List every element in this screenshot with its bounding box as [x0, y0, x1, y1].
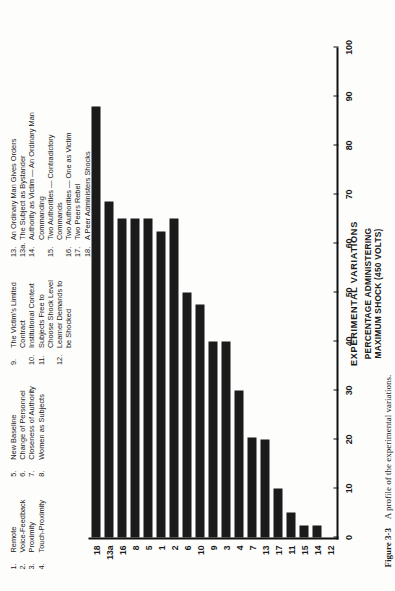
legend-item-label: Change of Personnel: [17, 390, 26, 459]
legend-item-number: 4.: [36, 555, 45, 569]
bar: [130, 219, 139, 538]
legend-item-number: 3.: [26, 555, 35, 569]
legend-item: 2. Voice-Feedback: [17, 489, 26, 569]
legend-item-label: The Victim's Limited Contract: [8, 282, 26, 348]
legend-item-label: Institutional Context: [26, 283, 35, 348]
value-tick: [333, 487, 338, 488]
category-tick-labels: 1813a1685126109347131711151412: [88, 543, 336, 573]
bar: [169, 219, 178, 538]
bar-row: [182, 47, 191, 537]
value-tick: [333, 193, 338, 194]
bar: [286, 513, 295, 538]
category-label-1: 1: [156, 543, 165, 573]
legend-item-label: Two Authorities — One as Victim: [63, 132, 72, 239]
legend-item-number: 7.: [26, 462, 35, 476]
category-label-17: 17: [273, 543, 282, 573]
legend-item-label: Remote: [8, 526, 17, 552]
bar: [117, 219, 126, 538]
category-label-11: 11: [286, 543, 295, 573]
value-tick: [333, 95, 338, 96]
legend-item: 5. New Baseline: [8, 378, 17, 477]
bar: [182, 292, 191, 537]
legend-item: 13a. The Subject as Bystander: [17, 99, 26, 257]
bar-row: [130, 47, 139, 537]
value-tick: [333, 389, 338, 390]
bar-row: [195, 47, 204, 537]
bar-row: [247, 47, 256, 537]
legend-item: 11. Subjects Free to Choose Shock Level: [36, 270, 54, 365]
legend-item: 3. Proximity: [26, 489, 35, 569]
category-label-2: 2: [169, 543, 178, 573]
legend-item-number: 6.: [17, 462, 26, 476]
legend-item: 8. Women as Subjects: [36, 378, 45, 477]
bar: [104, 201, 113, 537]
figure-page: 1. Remote 2. Voice-Feedback 3. Proximity…: [0, 0, 395, 591]
bar: [156, 231, 165, 537]
legend-item-number: 13a.: [17, 243, 26, 257]
legend-item: 6. Change of Personnel: [17, 378, 26, 477]
legend-item: 10. Institutional Context: [26, 270, 35, 365]
legend-item-number: 2.: [17, 555, 26, 569]
legend-item-number: 17.: [72, 243, 81, 257]
bar-row: [156, 47, 165, 537]
bar: [299, 525, 308, 537]
bar: [247, 437, 256, 537]
legend-item-number: 13.: [8, 243, 17, 257]
bar-row: [312, 47, 321, 537]
legend-item-number: 12.: [54, 351, 72, 365]
bar-row: [104, 47, 113, 537]
legend: 1. Remote 2. Voice-Feedback 3. Proximity…: [8, 99, 91, 569]
legend-item-number: 5.: [8, 462, 17, 476]
legend-item-label: Proximity: [26, 522, 35, 552]
bar-chart-figure: 1. Remote 2. Voice-Feedback 3. Proximity…: [0, 0, 395, 591]
bar-row: [260, 47, 269, 537]
category-label-16: 16: [117, 543, 126, 573]
bar: [221, 341, 230, 537]
category-label-6: 6: [182, 543, 191, 573]
legend-item-label: New Baseline: [8, 414, 17, 459]
category-label-15: 15: [299, 543, 308, 573]
legend-item-label: Subjects Free to Choose Shock Level: [36, 280, 54, 348]
legend-item-number: 8.: [36, 462, 45, 476]
legend-item-label: Closeness of Authority: [26, 386, 35, 460]
legend-item: 15. Two Authorities — Contradictory Comm…: [45, 99, 63, 257]
legend-item: 7. Closeness of Authority: [26, 378, 35, 477]
figure-caption: Figure 3-3 A profile of the experimental…: [382, 127, 392, 567]
legend-item-number: 15.: [45, 243, 63, 257]
category-label-5: 5: [143, 543, 152, 573]
value-tick: [333, 144, 338, 145]
bar: [91, 106, 100, 537]
bar-row: [299, 47, 308, 537]
legend-item: 14. Authority as Victim — An Ordinary Ma…: [26, 99, 44, 257]
value-tick: [333, 242, 338, 243]
value-tick-marks: 0102030405060708090100: [324, 47, 340, 537]
category-label-12: 12: [325, 543, 334, 573]
legend-column-3: 9. The Victim's Limited Contract 10. Ins…: [8, 270, 91, 365]
bar-row: [117, 47, 126, 537]
legend-item: 12. Learner Demands to be Shocked: [54, 270, 72, 365]
legend-item-label: Learner Demands to be Shocked: [54, 280, 72, 347]
value-tick: [333, 340, 338, 341]
legend-item-label: Authority as Victim — An Ordinary Man Co…: [26, 99, 44, 240]
legend-item-label: Two Peers Rebel: [72, 183, 81, 239]
legend-column-2: 5. New Baseline 6. Change of Personnel 7…: [8, 378, 91, 477]
legend-item: 1. Remote: [8, 489, 17, 569]
bar-row: [286, 47, 295, 537]
bar: [273, 488, 282, 537]
legend-item-label: The Subject as Bystander: [17, 155, 26, 240]
legend-item-number: 9.: [8, 351, 26, 365]
bar-row: [91, 47, 100, 537]
category-label-3: 3: [221, 543, 230, 573]
legend-item: 16. Two Authorities — One as Victim: [63, 99, 72, 257]
value-tick: [333, 46, 338, 47]
legend-item-label: Voice-Feedback: [17, 499, 26, 552]
value-tick: [333, 536, 338, 537]
legend-item: 17. Two Peers Rebel: [72, 99, 81, 257]
category-label-13: 13: [260, 543, 269, 573]
rotated-figure-container: 1. Remote 2. Voice-Feedback 3. Proximity…: [0, 0, 395, 591]
category-label-9: 9: [208, 543, 217, 573]
category-label-14: 14: [312, 543, 321, 573]
category-label-13a: 13a: [104, 543, 113, 573]
bar-row: [208, 47, 217, 537]
legend-item: 4. Touch-Proximity: [36, 489, 45, 569]
